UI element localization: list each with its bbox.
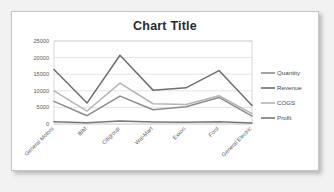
legend-label-cogs[interactable]: COGS [277, 99, 295, 106]
x-axis-tick-labels: General MotorsIBMCitigroupWal-MartExxonF… [23, 125, 253, 158]
chart-card[interactable]: Chart Title 0500010000150002000025000 Ge… [11, 11, 319, 171]
y-axis-tick-label: 15000 [33, 71, 49, 77]
y-axis-tick-label: 10000 [33, 88, 49, 94]
x-axis-tick-label: General Electric [220, 125, 253, 158]
data-series-lines [54, 55, 252, 123]
y-axis-tick-label: 25000 [33, 38, 49, 44]
x-axis-tick-label: IBM [76, 125, 88, 137]
series-line-profit [54, 121, 252, 123]
y-axis-tick-labels: 0500010000150002000025000 [33, 38, 49, 127]
legend-label-revenue[interactable]: Revenue [277, 84, 302, 91]
y-axis-tick-label: 5000 [37, 104, 49, 110]
line-chart-plot[interactable]: 0500010000150002000025000 General Motors… [12, 12, 320, 172]
x-axis-tick-label: Wal-Mart [134, 125, 154, 145]
x-axis-tick-label: Ford [207, 125, 219, 137]
legend-label-quantity[interactable]: Quantity [277, 69, 301, 76]
legend-label-profit[interactable]: Profit [277, 114, 292, 121]
x-axis-tick-label: Exxon [171, 125, 186, 140]
x-axis-tick-label: General Motors [23, 125, 55, 157]
chart-legend[interactable]: QuantityRevenueCOGSProfit [261, 69, 302, 121]
screenshot-root: Chart Title 0500010000150002000025000 Ge… [0, 0, 334, 192]
plot-area-frame [54, 41, 252, 124]
y-axis-tick-label: 20000 [33, 55, 49, 61]
gridlines [54, 41, 252, 124]
x-axis-tick-label: Citigroup [101, 125, 121, 145]
